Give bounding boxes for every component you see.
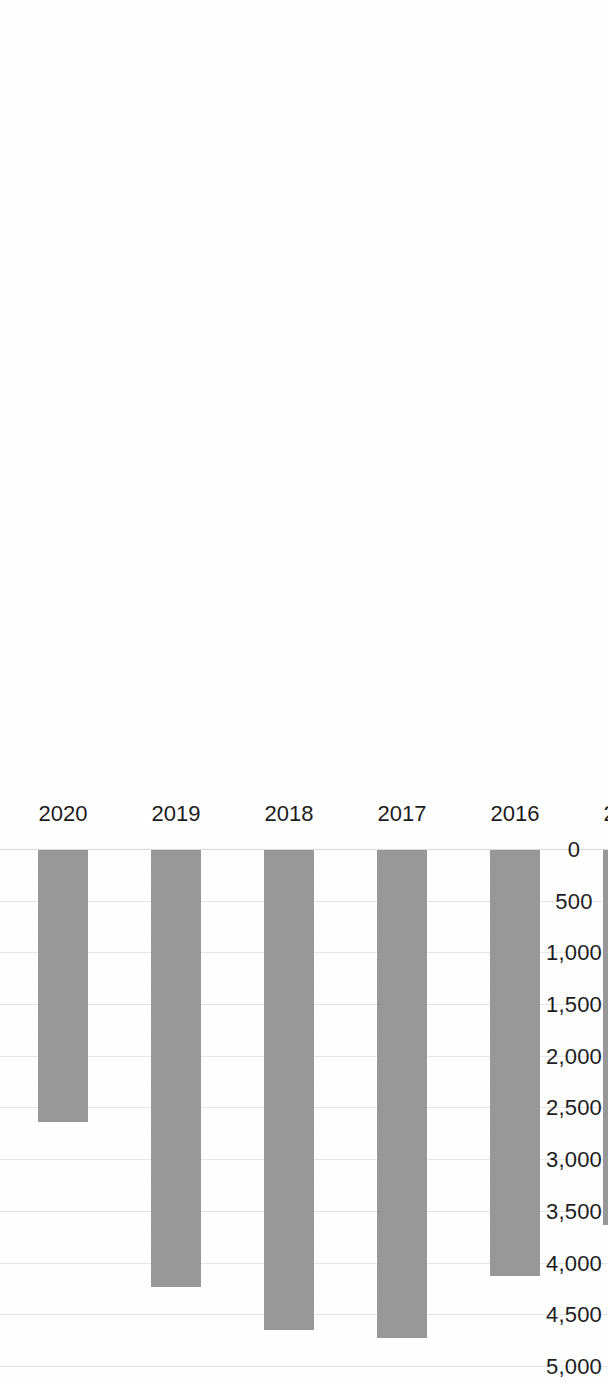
value-axis-tick-label: 3,500	[546, 1199, 602, 1225]
bar-2019	[151, 850, 201, 1287]
bar-2017	[377, 850, 427, 1338]
bar-2016	[490, 850, 540, 1276]
plot-area: 05001,0001,5002,0002,5003,0003,5004,0004…	[0, 0, 608, 1386]
value-axis-tick-label: 1,000	[546, 940, 602, 966]
value-axis-tick-label: 2,500	[546, 1096, 602, 1122]
value-axis-tick-label: 1,500	[546, 992, 602, 1018]
value-axis-tick-label: 5,000	[546, 1354, 602, 1380]
value-axis-tick-label: 4,000	[546, 1251, 602, 1277]
value-axis-tick-label: 3,000	[546, 1147, 602, 1173]
bar-chart-figure: 05001,0001,5002,0002,5003,0003,5004,0004…	[0, 0, 608, 1386]
bar-2018	[264, 850, 314, 1330]
value-axis-tick-label: 0	[568, 837, 580, 863]
category-label-2017: 2017	[378, 801, 427, 827]
category-label-2020: 2020	[39, 801, 88, 827]
category-label-2016: 2016	[491, 801, 540, 827]
bar-2015	[603, 850, 608, 1225]
gridline-5000	[0, 1366, 608, 1367]
bar-2020	[38, 850, 88, 1122]
value-axis-tick-label: 2,000	[546, 1044, 602, 1070]
value-axis-tick-label: 4,500	[546, 1302, 602, 1328]
value-axis-tick-label: 500	[555, 889, 592, 915]
category-label-2019: 2019	[152, 801, 201, 827]
category-label-2018: 2018	[265, 801, 314, 827]
category-label-2015: 2015	[604, 801, 608, 827]
